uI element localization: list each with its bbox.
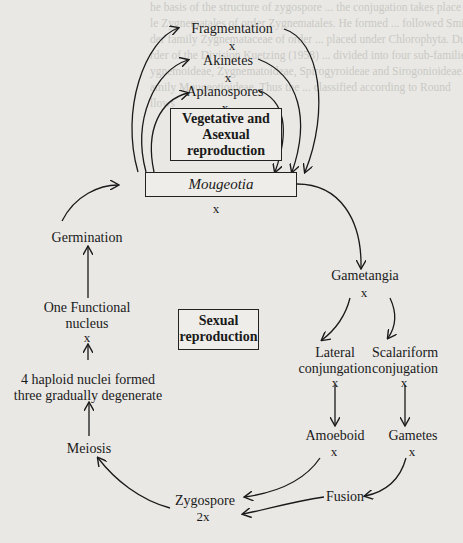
arrow-to-lateral — [322, 298, 350, 340]
arrow-gametes-to-fusion — [365, 458, 406, 496]
arrow-zygospore-to-meiosis — [98, 458, 170, 508]
lateral-line1: Lateral — [298, 345, 371, 361]
ploidy-lateral: x — [332, 375, 339, 391]
sexual-box-line1: Sexual — [179, 313, 258, 329]
asexual-reproduction-box: Vegetative and Asexual reproduction — [170, 108, 282, 161]
arrow-fusion-to-zygospore — [243, 497, 324, 514]
arrow-to-gametangia — [297, 184, 361, 268]
ploidy-scalariform: x — [401, 375, 408, 391]
arrow-germination-to-mougeotia — [62, 185, 118, 221]
haploid-line2: three gradually degenerate — [14, 388, 162, 404]
stage-gametes: Gametes — [389, 428, 438, 444]
functional-line1: One Functional — [44, 300, 131, 316]
stage-gametangia: Gametangia — [331, 268, 399, 284]
haploid-line1: 4 haploid nuclei formed — [14, 372, 162, 388]
stage-haploid-nuclei: 4 haploid nuclei formed three gradually … — [14, 372, 162, 404]
stage-akinetes: Akinetes — [203, 53, 253, 69]
stage-zygospore: Zygospore — [175, 493, 235, 509]
arrow-amoeboid-to-zygospore — [245, 458, 320, 497]
ploidy-mougeotia: x — [213, 201, 220, 217]
stage-aplanospores: Aplanospores — [187, 84, 264, 100]
sexual-reproduction-box: Sexual reproduction — [178, 309, 259, 350]
arrow-from-fragmentation — [284, 29, 319, 172]
stage-germination: Germination — [52, 230, 123, 246]
ploidy-amoeboid: x — [331, 444, 338, 460]
scalariform-line1: Scalariform — [372, 345, 438, 361]
ploidy-gametes: x — [409, 444, 416, 460]
stage-lateral-conjugation: Lateral conjungation — [298, 345, 371, 377]
stage-amoeboid: Amoeboid — [305, 428, 364, 444]
stage-fusion: Fusion — [326, 489, 364, 505]
asexual-box-line2: Asexual — [171, 127, 281, 143]
sexual-box-line2: reproduction — [179, 329, 258, 345]
stage-scalariform-conjugation: Scalariform conjugation — [372, 345, 438, 377]
asexual-box-line1: Vegetative and — [171, 111, 281, 127]
stage-meiosis: Meiosis — [67, 441, 111, 457]
asexual-box-line3: reproduction — [171, 143, 281, 159]
stage-functional-nucleus: One Functional nucleus — [44, 300, 131, 332]
ploidy-functional-nucleus: x — [84, 330, 91, 346]
ploidy-zygospore: 2x — [197, 509, 210, 525]
diagram-canvas: he basis of the structure of zygospore .… — [0, 0, 463, 543]
mougeotia-box: Mougeotia — [145, 172, 297, 197]
ploidy-fragmentation: x — [229, 38, 236, 54]
arrow-to-scalariform — [388, 298, 395, 338]
stage-fragmentation: Fragmentation — [191, 21, 273, 37]
ploidy-gametangia: x — [361, 285, 368, 301]
